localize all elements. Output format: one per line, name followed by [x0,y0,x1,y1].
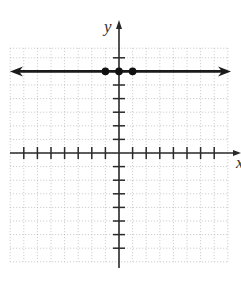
x-axis-label: x [235,153,241,172]
axes [10,20,241,268]
plotted-points [102,68,137,76]
point [129,68,137,76]
y-axis-arrow-icon [116,20,122,29]
point [115,68,123,76]
coordinate-plane: y x [0,0,241,281]
y-axis-label: y [102,17,112,36]
point [102,68,110,76]
